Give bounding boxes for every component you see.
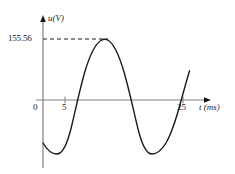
waveform-plot bbox=[0, 0, 235, 174]
origin-label: 0 bbox=[33, 103, 38, 112]
x-axis-title: t (ms) bbox=[199, 103, 220, 112]
y-axis-arrowhead-icon bbox=[40, 15, 46, 22]
y-tick-label-peak: 155.56 bbox=[8, 34, 32, 43]
x-tick-label-5: 5 bbox=[62, 103, 67, 112]
x-tick-label-25: 25 bbox=[177, 103, 186, 112]
waveform-figure: u(V) 155.56 0 5 25 t (ms) bbox=[0, 0, 235, 174]
y-axis-title: u(V) bbox=[48, 14, 64, 23]
